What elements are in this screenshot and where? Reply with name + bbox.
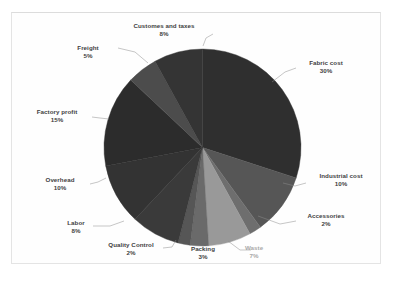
slice-label-accessories: Accessories 2% (297, 212, 355, 228)
leader-factory-profit (92, 117, 109, 119)
slice-label-freight-name: Freight (77, 44, 98, 51)
slice-label-industrial-cost: Industrial cost 10% (307, 172, 375, 188)
slice-label-packing-name: Packing (191, 245, 215, 252)
slice-label-overhead: Overhead 10% (31, 176, 89, 192)
slice-label-customes-and-taxes: Customes and taxes 8% (119, 22, 209, 38)
leader-freight (118, 48, 148, 63)
slice-label-industrial-cost-pct: 10% (307, 180, 375, 188)
slice-label-labor-name: Labor (67, 219, 84, 226)
leader-fabric-cost (272, 68, 296, 82)
slice-label-quality-control-name: Quality Control (108, 241, 153, 248)
slice-label-accessories-pct: 2% (297, 220, 355, 228)
slice-label-packing: Packing 3% (182, 245, 224, 261)
pie-chart (0, 0, 393, 281)
slice-label-overhead-name: Overhead (46, 176, 75, 183)
slice-label-waste-pct: 7% (236, 252, 272, 260)
slice-label-labor: Labor 8% (58, 219, 94, 235)
slice-label-packing-pct: 3% (182, 253, 224, 261)
slice-label-fabric-cost-name: Fabric cost (309, 59, 343, 66)
slice-label-fabric-cost-pct: 30% (297, 67, 355, 75)
leader-overhead (90, 178, 106, 184)
slice-label-freight: Freight 5% (62, 44, 114, 60)
slice-label-fabric-cost: Fabric cost 30% (297, 59, 355, 75)
slice-label-customes-and-taxes-pct: 8% (119, 30, 209, 38)
slice-label-waste-name: Waste (245, 244, 263, 251)
slice-label-factory-profit: Factory profit 15% (22, 108, 92, 124)
slice-label-overhead-pct: 10% (31, 184, 89, 192)
slice-label-quality-control-pct: 2% (99, 249, 163, 257)
slice-label-industrial-cost-name: Industrial cost (319, 172, 362, 179)
slice-label-freight-pct: 5% (62, 52, 114, 60)
slice-label-waste: Waste 7% (236, 244, 272, 260)
slice-label-accessories-name: Accessories (307, 212, 344, 219)
slice-label-factory-profit-name: Factory profit (37, 108, 78, 115)
slice-label-labor-pct: 8% (58, 227, 94, 235)
slice-label-customes-and-taxes-name: Customes and taxes (133, 22, 194, 29)
pie-slices (104, 49, 301, 246)
slice-label-factory-profit-pct: 15% (22, 116, 92, 124)
leader-labor (93, 221, 124, 226)
slice-label-quality-control: Quality Control 2% (99, 241, 163, 257)
